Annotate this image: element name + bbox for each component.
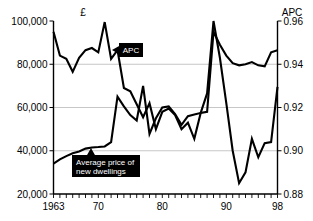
right-tick-label: 0.92	[284, 102, 304, 113]
chart-container: 100,00080,00060,00040,00020,000 0.960.94…	[0, 0, 313, 221]
left-tick-label: 40,000	[17, 145, 48, 156]
dwellings-callout-label-line1: Average price of	[76, 158, 135, 167]
apc-callout-label: APC	[123, 46, 140, 55]
x-tick-label: 98	[272, 201, 284, 212]
left-tick-label: 80,000	[17, 59, 48, 70]
left-tick-label: 20,000	[17, 189, 48, 200]
x-tick-label: 1963	[42, 201, 65, 212]
left-tick-label: 100,000	[11, 16, 48, 27]
right-axis-title: APC	[282, 7, 303, 18]
x-tick-label: 80	[157, 201, 169, 212]
x-tick-label: 70	[93, 201, 105, 212]
right-tick-label: 0.88	[284, 189, 304, 200]
line-chart: 100,00080,00060,00040,00020,000 0.960.94…	[0, 0, 313, 221]
x-tick-label: 90	[221, 201, 233, 212]
left-tick-label: 60,000	[17, 102, 48, 113]
right-tick-label: 0.94	[284, 59, 304, 70]
dwellings-callout-label-line2: new dwellings	[76, 167, 126, 176]
right-tick-label: 0.90	[284, 145, 304, 156]
left-axis-title: £	[80, 7, 86, 18]
